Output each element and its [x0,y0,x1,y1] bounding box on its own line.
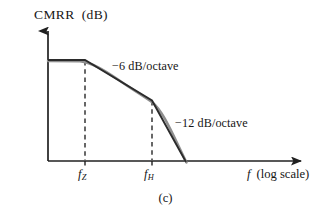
x-axis-note: (log scale) [257,167,310,181]
x-tick-label-fz-sub: Z [82,173,87,182]
bode-plot-svg [0,0,331,219]
annotation-slope-6db: −6 dB/octave [112,60,179,72]
response-curve [48,61,187,163]
x-tick-label-fh: fH [144,168,154,181]
figure-container: CMRR(dB) −6 dB/octave −12 dB/octave fZ f… [0,0,331,219]
x-axis-symbol: f [247,167,251,181]
x-tick-label-fh-sub: H [148,173,154,182]
x-tick-label-fh-symbol: f [144,167,147,181]
x-axis-label: f(log scale) [247,168,309,181]
asymptote-curve [48,60,186,162]
x-tick-label-fz-symbol: f [78,167,81,181]
y-axis-title: CMRR(dB) [34,8,108,22]
annotation-slope-12db: −12 dB/octave [175,117,248,129]
figure-caption: (c) [0,192,331,205]
y-axis-title-text: CMRR [34,7,75,22]
x-tick-label-fz: fZ [78,168,86,181]
y-axis-unit-text: (dB) [82,7,108,22]
